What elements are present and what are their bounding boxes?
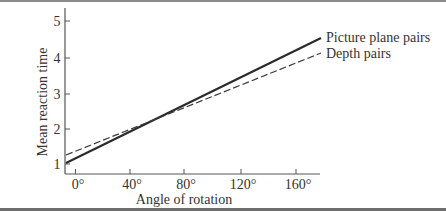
bottom-rule <box>0 208 446 211</box>
y-tick-2: 2 <box>54 122 61 137</box>
y-tick-5: 5 <box>54 14 61 29</box>
series-depth-pairs <box>66 53 321 155</box>
x-tick-160: 160° <box>285 177 312 192</box>
y-axis-label: Mean reaction time <box>35 48 50 157</box>
y-tick-3: 3 <box>54 87 61 102</box>
x-tick-80: 80° <box>176 177 196 192</box>
x-axis-label: Angle of rotation <box>136 192 232 207</box>
legend-picture-plane-pairs: Picture plane pairs <box>326 30 430 45</box>
x-tick-120: 120° <box>230 177 257 192</box>
chart: 1 2 3 4 5 0° 40° 80° 120° 160° Angle of … <box>0 0 446 212</box>
y-ticks <box>65 21 70 164</box>
x-tick-40: 40° <box>122 177 142 192</box>
x-ticks <box>76 169 297 174</box>
y-tick-1: 1 <box>54 157 61 172</box>
series-picture-plane-pairs <box>66 38 321 163</box>
y-tick-4: 4 <box>54 51 61 66</box>
x-tick-0: 0° <box>72 177 85 192</box>
legend-depth-pairs: Depth pairs <box>326 46 391 61</box>
